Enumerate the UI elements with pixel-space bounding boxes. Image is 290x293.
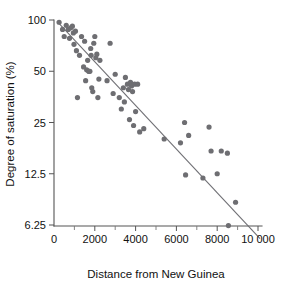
data-point [92, 34, 97, 39]
y-tick-label: 100 [28, 14, 46, 26]
data-point [133, 109, 138, 114]
data-point [88, 46, 93, 51]
x-axis-title: Distance from New Guinea [87, 268, 225, 280]
data-point [97, 58, 102, 63]
x-tick-label: 10 000 [241, 233, 275, 245]
data-point [83, 78, 88, 83]
data-point [104, 78, 109, 83]
data-point [117, 95, 122, 100]
data-point [91, 41, 96, 46]
y-axis-title: Degree of saturation (%) [4, 61, 16, 186]
data-point [75, 95, 80, 100]
y-tick-label: 25 [34, 117, 46, 129]
data-point [225, 151, 230, 156]
y-tick-label: 6.25 [25, 219, 46, 231]
y-tick-label: 12.5 [25, 168, 46, 180]
y-tick-label: 50 [34, 65, 46, 77]
x-tick-label: 8000 [205, 233, 229, 245]
data-point [119, 106, 124, 111]
data-point [77, 53, 82, 58]
data-point [186, 133, 191, 138]
data-point [127, 117, 132, 122]
data-point [89, 53, 94, 58]
data-point [62, 34, 67, 39]
data-point [73, 29, 78, 34]
data-point [95, 95, 100, 100]
data-point [131, 123, 136, 128]
scatter-plot-figure: 100502512.56.250200040006000800010 000 D… [0, 0, 290, 293]
data-point [74, 48, 79, 53]
data-point [123, 75, 128, 80]
data-point [60, 27, 65, 32]
x-tick-label: 6000 [164, 233, 188, 245]
data-point [94, 52, 99, 57]
data-point [67, 36, 72, 41]
data-point [113, 72, 118, 77]
axis-tick-labels: 100502512.56.250200040006000800010 000 [25, 14, 275, 245]
data-point [111, 91, 116, 96]
data-point [82, 39, 87, 44]
x-tick-label: 4000 [123, 233, 147, 245]
trend-line [57, 21, 260, 238]
data-point [226, 223, 231, 228]
data-point [183, 172, 188, 177]
data-point [70, 24, 75, 29]
data-point [57, 20, 62, 25]
regression-line [57, 21, 260, 238]
data-point [87, 69, 92, 74]
data-point [121, 85, 126, 90]
data-point [137, 129, 142, 134]
data-point [208, 148, 213, 153]
data-point [233, 200, 238, 205]
data-point [79, 34, 84, 39]
data-point [96, 76, 101, 81]
data-point [215, 171, 220, 176]
x-tick-label: 2000 [83, 233, 107, 245]
data-point [90, 89, 95, 94]
chart-canvas: 100502512.56.250200040006000800010 000 D… [0, 0, 290, 293]
axes [49, 20, 262, 231]
data-point [141, 126, 146, 131]
data-point [182, 120, 187, 125]
data-point [200, 175, 205, 180]
x-tick-label: 0 [51, 233, 57, 245]
data-point [71, 42, 76, 47]
data-point [219, 148, 224, 153]
data-point [162, 136, 167, 141]
data-points [57, 20, 239, 229]
data-point [130, 89, 135, 94]
data-point [178, 140, 183, 145]
data-point [135, 82, 140, 87]
data-point [85, 58, 90, 63]
data-point [108, 41, 113, 46]
data-point [122, 99, 127, 104]
data-point [206, 124, 211, 129]
